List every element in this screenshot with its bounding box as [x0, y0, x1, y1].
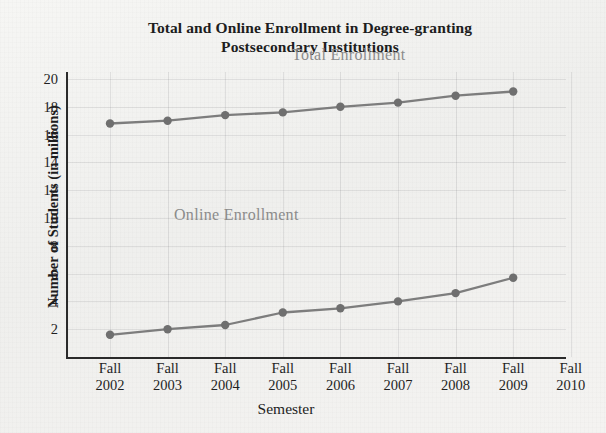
y-axis-tick-label: 2 — [32, 321, 58, 338]
data-point-marker — [279, 108, 287, 116]
data-point-marker — [106, 331, 114, 339]
data-point-marker — [451, 92, 459, 100]
y-axis-tick-label: 20 — [32, 71, 58, 88]
x-tick-term: Fall — [329, 360, 352, 376]
x-tick-term: Fall — [444, 360, 467, 376]
x-tick-term: Fall — [214, 360, 237, 376]
data-point-marker — [163, 117, 171, 125]
enrollment-line-chart-figure: Total and Online Enrollment in Degree-gr… — [0, 0, 606, 433]
y-axis-tick-label: 18 — [32, 98, 58, 115]
data-point-marker — [509, 274, 517, 282]
y-axis-tick-label: 10 — [32, 210, 58, 227]
data-point-marker — [451, 289, 459, 297]
x-tick-term: Fall — [560, 360, 583, 376]
x-tick-term: Fall — [156, 360, 179, 376]
x-tick-term: Fall — [272, 360, 295, 376]
x-axis-tick-label-group: Fall2002Fall2003Fall2004Fall2005Fall2006… — [66, 360, 566, 400]
y-axis-tick-label-group: 2018161412108642 — [28, 72, 58, 358]
data-point-marker — [221, 321, 229, 329]
data-point-marker — [336, 304, 344, 312]
gridline-vertical — [571, 72, 572, 357]
series-label-online-enrollment: Online Enrollment — [174, 206, 299, 224]
data-point-marker — [336, 103, 344, 111]
x-axis-title: Semester — [66, 400, 506, 418]
y-axis-tick-label: 12 — [32, 182, 58, 199]
x-tick-term: Fall — [99, 360, 122, 376]
y-axis-tick-label: 6 — [32, 265, 58, 282]
chart-title-line-1: Total and Online Enrollment in Degree-gr… — [148, 19, 472, 36]
data-point-marker — [221, 111, 229, 119]
data-point-marker — [394, 98, 402, 106]
x-axis-tick-label: Fall2010 — [536, 360, 606, 394]
data-point-marker — [106, 119, 114, 127]
x-tick-term: Fall — [502, 360, 525, 376]
data-point-marker — [163, 325, 171, 333]
y-axis-tick-label: 16 — [32, 126, 58, 143]
data-point-marker — [394, 297, 402, 305]
series-label-total-enrollment: Total Enrollment — [292, 46, 405, 64]
plot-area — [66, 72, 566, 358]
x-tick-year: 2010 — [536, 377, 606, 394]
data-point-marker — [279, 308, 287, 316]
x-tick-term: Fall — [387, 360, 410, 376]
y-axis-tick-label: 8 — [32, 237, 58, 254]
y-axis-tick-label: 4 — [32, 293, 58, 310]
y-axis-tick-label: 14 — [32, 154, 58, 171]
series-plot-svg — [66, 72, 566, 359]
data-point-marker — [509, 87, 517, 95]
